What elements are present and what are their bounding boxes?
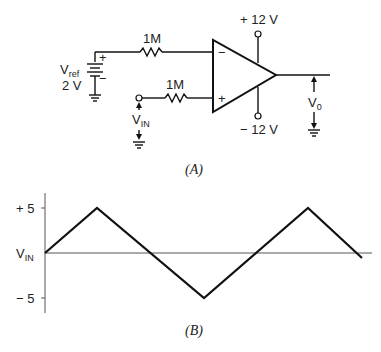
circuit-schematic: + − Vref 2 V 1M 1M VIN − + + [60, 12, 330, 178]
r1-label: 1M [143, 31, 161, 46]
vref-label: Vref [60, 62, 80, 79]
resistor-r1-icon [140, 48, 162, 56]
waveform-plot: + 5 − 5 VIN (B) [16, 193, 372, 339]
ground-icon [133, 142, 145, 148]
noninv-input-sign: + [218, 91, 226, 106]
ground-icon [308, 130, 320, 136]
diagram-canvas: + − Vref 2 V 1M 1M VIN − + + [0, 0, 381, 352]
tick-pos-label: + 5 [16, 201, 34, 216]
inv-input-sign: − [218, 45, 226, 60]
tick-neg-label: − 5 [16, 291, 34, 306]
resistor-r2-icon [165, 94, 187, 102]
caption-a: (A) [185, 162, 203, 178]
vpos-supply-label: + 12 V [240, 12, 278, 27]
vneg-supply-label: − 12 V [240, 122, 278, 137]
caption-b: (B) [185, 323, 203, 339]
ground-icon [89, 95, 101, 101]
vneg-terminal-icon [255, 113, 261, 119]
vpos-terminal-icon [255, 31, 261, 37]
y-axis-label: VIN [16, 246, 34, 263]
r2-label: 1M [166, 77, 184, 92]
battery-minus: − [99, 71, 107, 86]
vref-value: 2 V [62, 78, 82, 93]
battery-plus: + [99, 50, 107, 65]
vin-terminal-icon [136, 95, 142, 101]
